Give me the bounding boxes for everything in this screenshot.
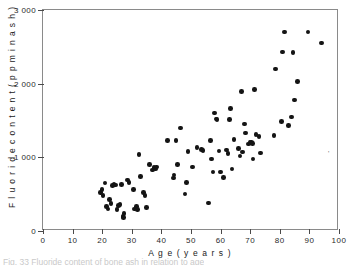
y-axis-tick-label: 2 000 — [14, 79, 36, 88]
scatter-point — [201, 148, 206, 153]
scatter-point — [258, 151, 263, 156]
scatter-point — [250, 141, 255, 146]
scatter-point — [165, 138, 170, 143]
scatter-point — [215, 117, 220, 122]
scatter-point — [115, 207, 120, 212]
x-axis-tick-mark — [73, 229, 74, 234]
y-axis-tick-mark — [38, 84, 44, 85]
x-axis-tick-label: 90 — [304, 236, 314, 245]
scatter-point — [243, 131, 248, 136]
scatter-point — [172, 173, 177, 178]
scatter-point — [230, 167, 235, 172]
scatter-point — [252, 87, 257, 92]
scatter-point — [291, 50, 296, 55]
x-axis-tick-label: 80 — [275, 236, 285, 245]
scatter-point — [209, 157, 214, 162]
x-axis-tick-mark — [250, 229, 251, 234]
x-axis-tick-label: 20 — [97, 236, 107, 245]
scatter-point — [292, 98, 297, 103]
scatter-point — [273, 67, 278, 72]
scatter-point — [282, 30, 287, 35]
x-axis-tick-mark — [102, 229, 103, 234]
scatter-point — [306, 30, 311, 35]
x-axis-tick-mark — [43, 229, 44, 234]
scatter-point — [251, 157, 256, 162]
scatter-point — [257, 134, 262, 139]
scatter-point — [109, 201, 114, 206]
x-axis-tick-mark — [221, 229, 222, 234]
scatter-point — [138, 174, 143, 179]
scatter-point — [228, 106, 233, 111]
y-axis-tick-mark — [38, 157, 44, 158]
scatter-point — [186, 149, 191, 154]
scatter-point — [239, 89, 244, 94]
x-axis-tick-label: 30 — [127, 236, 137, 245]
scatter-point — [242, 122, 247, 127]
scatter-point — [272, 133, 277, 138]
x-axis-tick-label: 50 — [186, 236, 196, 245]
x-axis-tick-mark — [309, 229, 310, 234]
scatter-point — [190, 165, 195, 170]
x-axis-tick-label: 60 — [216, 236, 226, 245]
scatter-point — [101, 193, 106, 198]
x-axis-tick-label: 40 — [156, 236, 166, 245]
y-axis-tick-mark — [38, 10, 44, 11]
x-axis-tick-mark — [161, 229, 162, 234]
scatter-point — [218, 170, 223, 175]
x-axis-tick-label: 70 — [245, 236, 255, 245]
scatter-point — [184, 180, 189, 185]
y-axis-tick-label: 0 — [31, 227, 36, 236]
scatter-point — [240, 150, 245, 155]
y-axis-tick-label: 1 000 — [14, 153, 36, 162]
scatter-point — [106, 207, 111, 212]
y-axis-title: F l u o r i d e c o n t e n t ( p p m i … — [7, 38, 17, 208]
scatter-point — [113, 183, 118, 188]
scatter-point — [119, 182, 124, 187]
x-axis-tick-mark — [191, 229, 192, 234]
scatter-point — [217, 149, 222, 154]
scatter-point — [154, 165, 159, 170]
figure-caption: Fig. 33 Fluoride content of bone ash in … — [3, 257, 204, 265]
scatter-point — [144, 205, 149, 210]
scatter-point — [208, 138, 213, 143]
x-axis-tick-label: 10 — [68, 236, 78, 245]
scatter-point — [212, 111, 217, 116]
scatter-point — [279, 119, 284, 124]
scatter-point — [232, 137, 237, 142]
figure-scatter-fluoride-vs-age: F l u o r i d e c o n t e n t ( p p m i … — [0, 0, 351, 265]
y-axis-tick-label: 3 000 — [14, 6, 36, 15]
scatter-point — [280, 50, 285, 55]
scatter-point — [227, 117, 232, 122]
x-axis-tick-mark — [132, 229, 133, 234]
scatter-point — [118, 202, 123, 207]
scatter-point — [319, 41, 324, 46]
scatter-point — [183, 192, 188, 197]
scatter-point — [143, 193, 148, 198]
scatter-point — [127, 180, 132, 185]
scatter-point — [295, 79, 300, 84]
scatter-point — [135, 207, 140, 212]
scatter-point — [238, 154, 243, 159]
scatter-point — [100, 187, 105, 192]
scatter-point — [211, 170, 216, 175]
scatter-point — [131, 187, 136, 192]
scatter-point — [221, 175, 226, 180]
scatter-point — [289, 115, 294, 120]
plot-frame: 01 0002 0003 0000102030405060708090100 ' — [42, 9, 338, 230]
x-axis-tick-label: 100 — [332, 236, 347, 245]
x-axis-tick-label: 0 — [41, 236, 46, 245]
scatter-point — [175, 162, 180, 167]
scatter-point — [226, 151, 231, 156]
scatter-point — [206, 201, 211, 206]
x-axis-tick-mark — [339, 229, 340, 234]
scatter-point — [178, 126, 183, 131]
scatter-point — [103, 181, 108, 186]
scatter-points-layer — [43, 10, 337, 229]
stray-ink-mark: ' — [328, 149, 329, 156]
scatter-point — [137, 152, 142, 157]
scatter-point — [174, 138, 179, 143]
x-axis-tick-mark — [280, 229, 281, 234]
scatter-point — [286, 123, 291, 128]
